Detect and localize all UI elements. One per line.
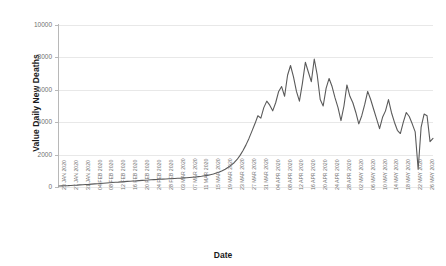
x-tick-label: 04 FEB 2020: [97, 160, 103, 190]
x-tick-label: 26 MAY 2020: [429, 159, 435, 190]
x-tick-label: 24 FEB 2020: [156, 160, 162, 190]
data-line-series: [59, 25, 433, 187]
x-tick-label: 24 APR 2020: [334, 159, 340, 190]
x-tick-label: 23 MAR 2020: [239, 158, 245, 190]
x-tick-label: 02 MAY 2020: [358, 159, 364, 190]
gridline: [59, 187, 433, 188]
x-tick-label: 10 MAY 2020: [382, 159, 388, 190]
x-tick-label: 06 MAY 2020: [370, 159, 376, 190]
x-tick-label: 15 MAR 2020: [215, 158, 221, 190]
y-tick-label: 6000: [12, 86, 52, 93]
x-tick-label: 14 MAY 2020: [393, 159, 399, 190]
x-tick-label: 23 JAN 2020: [61, 160, 67, 190]
x-tick-label: 19 MAR 2020: [227, 158, 233, 190]
y-tick-label: 4000: [12, 118, 52, 125]
x-tick-label: 27 JAN 2020: [73, 160, 79, 190]
x-tick-label: 16 APR 2020: [310, 159, 316, 190]
y-tick-label: 0: [12, 183, 52, 190]
x-tick-label: 20 FEB 2020: [144, 160, 150, 190]
x-tick-label: 22 MAY 2020: [417, 159, 423, 190]
x-tick-label: 12 APR 2020: [298, 159, 304, 190]
chart-container: Value Daily New Deaths 02000400060008000…: [0, 0, 446, 266]
x-tick-label: 16 FEB 2020: [132, 160, 138, 190]
x-tick-label: 08 APR 2020: [287, 159, 293, 190]
x-tick-label: 03 MAR 2020: [180, 158, 186, 190]
x-tick-label: 27 MAR 2020: [251, 158, 257, 190]
x-axis-title: Date: [0, 250, 446, 260]
x-tick-label: 04 APR 2020: [275, 159, 281, 190]
x-tick-label: 12 FEB 2020: [120, 160, 126, 190]
x-tick-label: 08 FEB 2020: [108, 160, 114, 190]
y-tick-label: 2000: [12, 151, 52, 158]
x-tick-label: 07 MAR 2020: [192, 158, 198, 190]
x-tick-label: 18 MAY 2020: [405, 159, 411, 190]
plot-area: [59, 25, 433, 187]
x-tick-label: 11 MAR 2020: [203, 159, 209, 190]
x-tick-label: 28 APR 2020: [346, 159, 352, 190]
x-tick-label: 31 MAR 2020: [263, 158, 269, 190]
x-tick-label: 20 APR 2020: [322, 159, 328, 190]
x-tick-label: 28 FEB 2020: [168, 160, 174, 190]
y-tick-label: 8000: [12, 53, 52, 60]
x-tick-label: 31 JAN 2020: [85, 160, 91, 190]
y-tick-label: 10000: [12, 21, 52, 28]
